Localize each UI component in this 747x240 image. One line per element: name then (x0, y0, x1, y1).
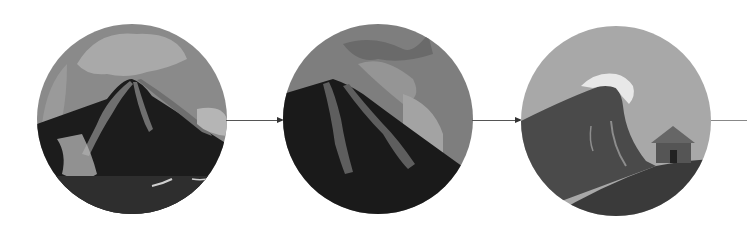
panel-eruption (37, 24, 227, 214)
tsunami-illustration (521, 26, 711, 216)
flank-collapse-illustration (283, 24, 473, 214)
volcano-eruption-illustration (37, 24, 227, 214)
arrow-tsunami-to-next (711, 120, 747, 121)
panel-flank-collapse (283, 24, 473, 214)
arrow-eruption-to-collapse (226, 120, 282, 121)
arrow-collapse-to-tsunami (472, 120, 520, 121)
panel-tsunami (521, 26, 711, 216)
